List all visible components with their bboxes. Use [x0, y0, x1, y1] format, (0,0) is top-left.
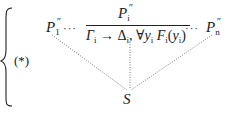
ellipsis-right: ···	[185, 22, 199, 34]
sequent: Γi → Δi, ∀yi Fi(yi)	[86, 27, 186, 45]
inference-line	[86, 25, 190, 26]
premise-pi: P″i	[118, 2, 130, 23]
premise-p1: P″1	[46, 16, 60, 37]
premise-pn: P″n	[206, 16, 220, 37]
derivation-figure: (*) P″1 ··· P″i Γi → Δi, ∀yi Fi(yi) ··· …	[0, 0, 240, 115]
conclusion-s: S	[123, 91, 131, 108]
ellipsis-left: ···	[63, 22, 77, 34]
